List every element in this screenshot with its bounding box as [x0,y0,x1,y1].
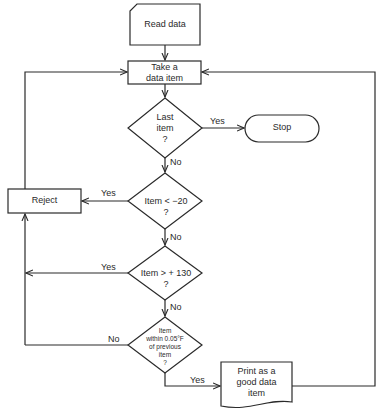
gt-130-label-2: ? [128,279,204,290]
read-data-node: Read data [130,19,200,30]
within-label-2: within 0.05°F [131,335,199,343]
stop-label: Stop [273,122,292,132]
edge-label-gt-yes: Yes [101,262,116,272]
lt-minus20-label-1: Item < −20 [128,196,204,207]
within-label-1: Item [131,327,199,335]
edge-label-last-no: No [170,157,182,167]
lt-minus20-label-2: ? [128,207,204,218]
edge-label-gt-no: No [170,302,182,312]
gt-130-label-1: Item > + 130 [128,268,204,279]
stop-node: Stop [245,122,319,133]
edge-label-last-yes: Yes [210,116,225,126]
print-good-label-2: good data [221,377,292,388]
edge-label-within-yes: Yes [190,375,205,385]
print-good-node: Print as a good data item [221,366,292,399]
within-node: Item within 0.05°F of previous item ? [131,327,199,367]
read-data-label: Read data [144,19,186,29]
print-good-label-1: Print as a [221,366,292,377]
gt-130-node: Item > + 130 ? [128,268,204,290]
lt-minus20-node: Item < −20 ? [128,196,204,218]
last-item-label-2: item [140,123,190,134]
edge-label-lt-yes: Yes [101,188,116,198]
last-item-label-3: ? [140,134,190,145]
last-item-label-1: Last [140,112,190,123]
take-item-node: Take a data item [128,62,201,84]
reject-label: Reject [32,195,58,205]
within-label-5: ? [131,359,199,367]
edge-label-within-no: No [108,334,120,344]
take-item-label-2: data item [128,73,201,84]
print-good-label-3: item [221,388,292,399]
last-item-node: Last item ? [140,112,190,145]
within-label-3: of previous [131,343,199,351]
take-item-label-1: Take a [128,62,201,73]
reject-node: Reject [8,195,81,206]
edge-label-lt-no: No [170,232,182,242]
within-label-4: item [131,351,199,359]
